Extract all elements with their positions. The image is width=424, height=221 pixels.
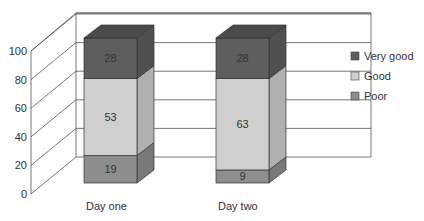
- data-label: 9: [239, 170, 245, 182]
- bar-day-one: 195328: [84, 25, 154, 183]
- side-gridline: [31, 71, 76, 108]
- bar-day-two: 96328: [216, 25, 286, 183]
- data-label: 53: [104, 111, 116, 123]
- y-tick-label: 80: [15, 74, 27, 86]
- x-axis-labels: Day oneDay two: [86, 200, 258, 212]
- legend-label: Poor: [364, 90, 388, 102]
- side-gridline: [31, 157, 76, 194]
- stacked-bar-chart: 020406080100 19532896328 Day oneDay two …: [0, 0, 424, 221]
- bars: 19532896328: [84, 25, 286, 183]
- y-tick-label: 0: [21, 188, 27, 200]
- legend-swatch: [351, 92, 359, 100]
- chart-legend: Very goodGoodPoor: [351, 50, 414, 102]
- side-gridline: [31, 43, 76, 80]
- legend-label: Very good: [364, 50, 414, 62]
- data-label: 63: [236, 118, 248, 130]
- y-axis: 020406080100: [9, 45, 31, 200]
- side-gridline: [31, 13, 76, 51]
- bar-side-face: [269, 66, 286, 170]
- x-tick-label: Day two: [218, 200, 258, 212]
- legend-swatch: [351, 52, 359, 60]
- bar-side-face: [137, 66, 154, 156]
- legend-label: Good: [364, 70, 391, 82]
- y-tick-label: 100: [9, 45, 27, 57]
- data-label: 28: [104, 52, 116, 64]
- chart-gridlines: [31, 13, 371, 194]
- side-gridline: [31, 128, 76, 165]
- y-tick-label: 40: [15, 131, 27, 143]
- x-tick-label: Day one: [86, 200, 127, 212]
- data-label: 19: [104, 163, 116, 175]
- data-label: 28: [236, 52, 248, 64]
- y-tick-label: 60: [15, 102, 27, 114]
- side-gridline: [31, 100, 76, 137]
- legend-swatch: [351, 72, 359, 80]
- y-tick-label: 20: [15, 159, 27, 171]
